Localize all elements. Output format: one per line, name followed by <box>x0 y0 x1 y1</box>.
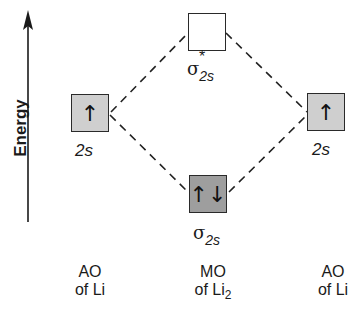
line-bonding-to-right <box>229 115 307 192</box>
line-left-to-bonding <box>110 115 189 193</box>
spin-up-arrow-icon: ↑ <box>81 101 99 126</box>
bonding-mo-label: σ2s <box>193 222 220 244</box>
caption-center: MO of Li2 <box>183 263 243 300</box>
antibonding-mo-box <box>188 13 226 51</box>
antibonding-star: * <box>199 48 205 66</box>
spin-pair-arrows-icon: ↑↓ <box>190 182 227 207</box>
bonding-mo-box: ↑↓ <box>189 175 227 213</box>
line-antibonding-to-right <box>226 33 307 112</box>
caption-right: AO of Li <box>303 263 356 299</box>
line-left-to-antibonding <box>111 33 188 112</box>
spin-up-arrow-icon: ↑ <box>317 100 335 125</box>
right-ao-box: ↑ <box>307 93 345 131</box>
left-ao-box: ↑ <box>71 94 109 132</box>
right-ao-label: 2s <box>312 140 330 160</box>
energy-axis-label: Energy <box>11 93 31 163</box>
caption-left: AO of Li <box>60 263 120 299</box>
antibonding-mo-label: * σ2s <box>187 58 214 80</box>
left-ao-label: 2s <box>75 141 93 161</box>
